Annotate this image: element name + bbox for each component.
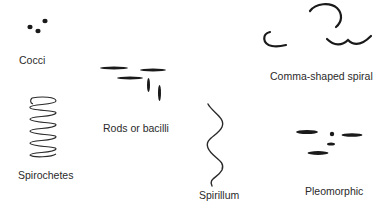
label-pleomorphic: Pleomorphic xyxy=(305,186,363,197)
cocci-dots-icon xyxy=(27,19,47,33)
comma-spiral-icon xyxy=(264,4,371,46)
mixed-shapes-icon xyxy=(296,130,363,155)
label-cocci: Cocci xyxy=(19,55,45,66)
bacteria-shapes-diagram: Cocci Rods or bacilli Comma-shaped spira… xyxy=(0,0,387,209)
coil-spring-icon xyxy=(30,97,56,157)
label-spirillum: Spirillum xyxy=(199,190,239,201)
label-comma: Comma-shaped spiral xyxy=(270,71,373,82)
rod-bacilli-icon xyxy=(100,67,166,101)
label-spirochetes: Spirochetes xyxy=(18,170,73,181)
label-rods: Rods or bacilli xyxy=(103,123,169,134)
wavy-spiral-icon xyxy=(207,104,222,186)
